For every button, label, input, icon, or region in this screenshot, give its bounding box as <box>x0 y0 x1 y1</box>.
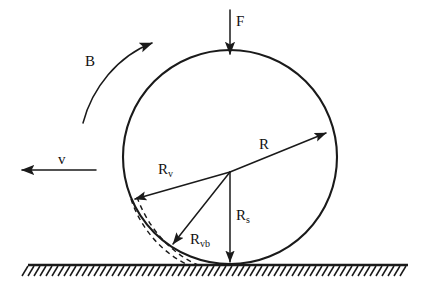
radius-Rvb-label: Rvb <box>190 232 210 247</box>
deformation-arc-inner <box>131 199 186 264</box>
radius-Rs-label-symbol: R <box>236 207 246 223</box>
radius-Rv-label: Rv <box>158 162 173 177</box>
radius-Rvb-label-subscript: vb <box>200 238 210 249</box>
radius-Rs-label: Rs <box>236 208 250 223</box>
radius-Rv-label-subscript: v <box>168 168 173 179</box>
radius-Rv-label-symbol: R <box>158 161 168 177</box>
force-label: F <box>236 14 244 29</box>
radius-R-arrow <box>230 133 326 172</box>
radius-R-label-text: R <box>259 136 269 152</box>
velocity-label: v <box>58 152 66 167</box>
ground-hatching <box>22 266 406 276</box>
physics-diagram: F B v R Rv Rs Rvb <box>0 0 427 292</box>
diagram-canvas <box>0 0 427 292</box>
radius-Rvb-label-symbol: R <box>190 231 200 247</box>
rotation-label: B <box>85 54 95 69</box>
radius-Rv-arrow <box>135 172 230 199</box>
radius-Rs-label-subscript: s <box>246 214 250 225</box>
radius-R-label: R <box>259 137 269 152</box>
force-label-text: F <box>236 13 244 29</box>
velocity-label-text: v <box>58 151 66 167</box>
rotation-label-text: B <box>85 53 95 69</box>
